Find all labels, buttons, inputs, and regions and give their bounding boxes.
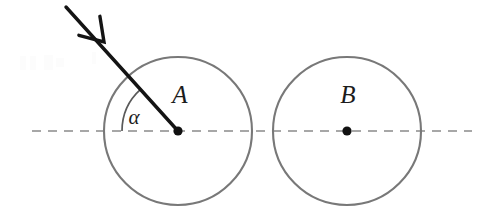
arrow-head-icon [79,16,104,42]
scan-artifact [92,52,96,64]
circle-b-label: B [340,81,355,108]
angle-alpha-label: α [128,105,140,129]
scan-artifact-group [20,52,96,70]
centre-dot-b [342,126,351,135]
collision-diagram-figure: A B α [0,0,495,222]
diagram-canvas: A B α [0,0,495,222]
scan-artifact [56,58,64,67]
scan-artifact [30,56,36,70]
circle-a-label: A [170,81,188,108]
scan-artifact [20,56,26,70]
centre-dot-a [173,126,182,135]
incoming-velocity-arrow-shaft [66,7,178,131]
scan-artifact [44,55,53,70]
